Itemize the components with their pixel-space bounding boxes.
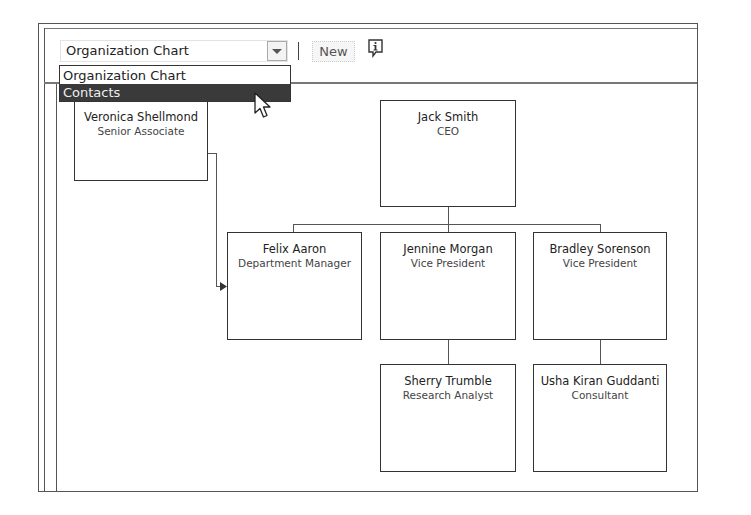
org-node-jack-smith[interactable]: Jack Smith CEO [380, 100, 516, 207]
frame-inner-border-top [44, 28, 697, 29]
node-title: Consultant [534, 388, 666, 402]
node-title: Department Manager [228, 256, 361, 270]
view-select[interactable]: Organization Chart [60, 40, 288, 62]
view-select-dropdown-button[interactable] [267, 41, 287, 61]
mouse-pointer-icon [253, 92, 275, 120]
node-name: Sherry Trumble [381, 374, 515, 388]
node-name: Jack Smith [381, 110, 515, 124]
frame-inner-border-left [44, 28, 45, 491]
node-title: Vice President [534, 256, 666, 270]
node-title: Senior Associate [75, 124, 207, 138]
connector-line [293, 224, 294, 232]
connector-line [448, 206, 449, 232]
node-name: Usha Kiran Guddanti [534, 374, 666, 388]
node-name: Bradley Sorenson [534, 242, 666, 256]
org-node-sherry-trumble[interactable]: Sherry Trumble Research Analyst [380, 364, 516, 472]
org-node-jennine-morgan[interactable]: Jennine Morgan Vice President [380, 232, 516, 340]
node-name: Veronica Shellmond [75, 110, 207, 124]
org-node-veronica-shellmond[interactable]: Veronica Shellmond Senior Associate [74, 100, 208, 181]
info-icon[interactable] [367, 38, 385, 58]
org-node-usha-kiran-guddanti[interactable]: Usha Kiran Guddanti Consultant [533, 364, 667, 472]
node-title: Research Analyst [381, 388, 515, 402]
new-button[interactable]: New [312, 41, 355, 62]
chevron-down-icon [272, 49, 282, 54]
connector-line [448, 339, 449, 364]
node-title: CEO [381, 124, 515, 138]
org-node-bradley-sorenson[interactable]: Bradley Sorenson Vice President [533, 232, 667, 340]
dropdown-option-organization-chart[interactable]: Organization Chart [60, 67, 290, 84]
node-name: Jennine Morgan [381, 242, 515, 256]
connector-line [600, 339, 601, 364]
org-node-felix-aaron[interactable]: Felix Aaron Department Manager [227, 232, 362, 340]
toolbar-divider [298, 42, 299, 60]
connector-line [600, 224, 601, 232]
connector-line [293, 224, 601, 225]
canvas-left-border [56, 83, 57, 491]
node-name: Felix Aaron [228, 242, 361, 256]
connector-line [207, 153, 216, 154]
node-title: Vice President [381, 256, 515, 270]
connector-line [216, 153, 217, 286]
